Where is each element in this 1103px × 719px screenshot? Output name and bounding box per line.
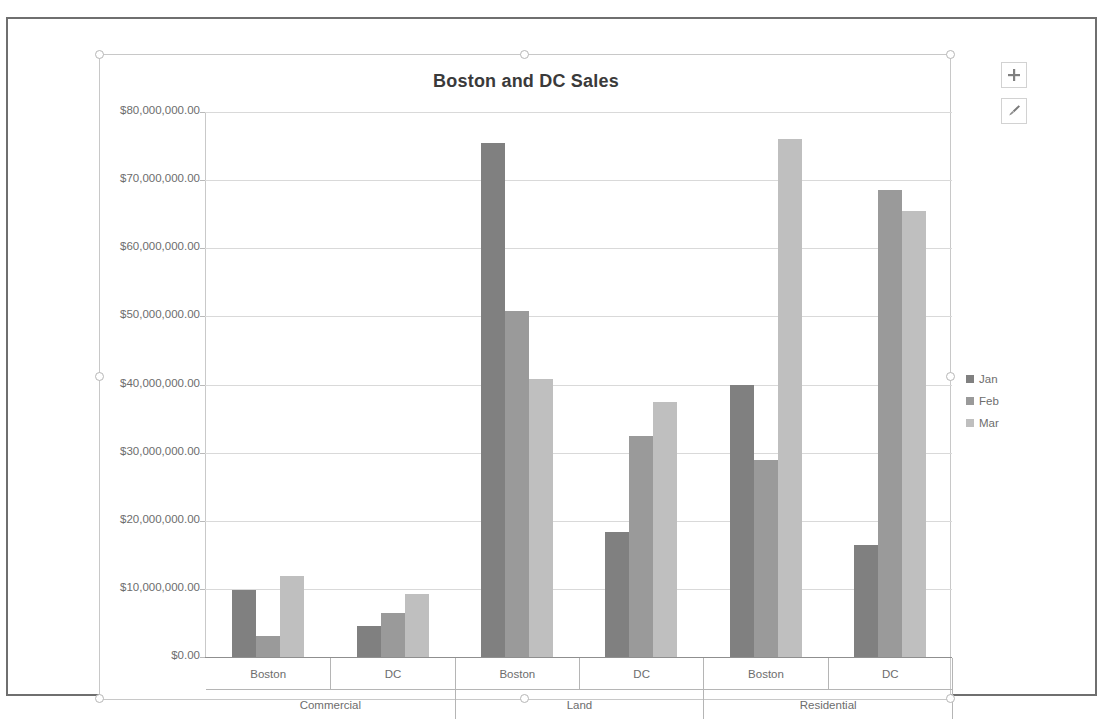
group-label-residential: Residential — [703, 689, 952, 719]
legend-item-jan[interactable]: Jan — [966, 368, 1030, 390]
y-axis-tick — [200, 316, 205, 317]
resize-handle-bottom-right[interactable] — [946, 694, 955, 703]
category-label-dc-5: DC — [828, 658, 952, 689]
bar-jan-land-dc[interactable] — [605, 532, 629, 657]
category-axis-level-1-end-rule — [952, 658, 953, 689]
category-axis-level-1: BostonDCBostonDCBostonDC — [206, 658, 952, 689]
bar-jan-land-boston[interactable] — [481, 143, 505, 657]
y-axis-tick-label: $40,000,000.00 — [50, 377, 200, 389]
bar-feb-commercial-dc[interactable] — [381, 613, 405, 657]
plus-icon — [1007, 68, 1021, 82]
bars-layer — [206, 112, 952, 657]
y-axis-tick — [200, 453, 205, 454]
category-label-boston-2: Boston — [455, 658, 579, 689]
chart-object[interactable]: Boston and DC Sales $80,000,000.00$70,00… — [99, 54, 951, 700]
y-axis-tick-label: $80,000,000.00 — [50, 104, 200, 116]
bar-mar-commercial-dc[interactable] — [405, 594, 429, 657]
category-label-dc-3: DC — [579, 658, 703, 689]
category-axis-level-2: CommercialLandResidential — [206, 689, 952, 719]
resize-handle-top-left[interactable] — [95, 50, 104, 59]
y-axis-tick-label: $20,000,000.00 — [50, 513, 200, 525]
legend-label: Feb — [979, 395, 999, 407]
group-label-commercial: Commercial — [206, 689, 455, 719]
bar-feb-land-boston[interactable] — [505, 311, 529, 657]
y-axis-tick — [200, 248, 205, 249]
legend-swatch-feb-icon — [966, 397, 974, 405]
chart-title: Boston and DC Sales — [100, 71, 952, 92]
y-axis-tick — [200, 180, 205, 181]
bar-jan-commercial-dc[interactable] — [357, 626, 381, 657]
y-axis-tick-label: $30,000,000.00 — [50, 445, 200, 457]
chart-legend[interactable]: JanFebMar — [966, 368, 1030, 434]
bar-mar-commercial-boston[interactable] — [280, 576, 304, 657]
bar-jan-commercial-boston[interactable] — [232, 590, 256, 657]
y-axis-tick-label: $60,000,000.00 — [50, 240, 200, 252]
chart-elements-button[interactable] — [1001, 62, 1027, 88]
bar-jan-residential-dc[interactable] — [854, 545, 878, 657]
bar-feb-land-dc[interactable] — [629, 436, 653, 657]
y-axis-tick — [200, 112, 205, 113]
category-label-boston-4: Boston — [703, 658, 827, 689]
bar-mar-land-dc[interactable] — [653, 402, 677, 657]
legend-label: Jan — [979, 373, 998, 385]
bar-jan-residential-boston[interactable] — [730, 385, 754, 657]
resize-handle-top-center[interactable] — [520, 50, 529, 59]
screenshot-root: Boston and DC Sales $80,000,000.00$70,00… — [0, 0, 1103, 719]
bar-feb-residential-boston[interactable] — [754, 460, 778, 657]
legend-item-feb[interactable]: Feb — [966, 390, 1030, 412]
y-axis-tick-label: $10,000,000.00 — [50, 581, 200, 593]
legend-item-mar[interactable]: Mar — [966, 412, 1030, 434]
plot-area: $80,000,000.00$70,000,000.00$60,000,000.… — [205, 112, 952, 657]
group-label-land: Land — [455, 689, 704, 719]
resize-handle-middle-right[interactable] — [946, 372, 955, 381]
legend-swatch-mar-icon — [966, 419, 974, 427]
bar-mar-residential-dc[interactable] — [902, 211, 926, 657]
legend-swatch-jan-icon — [966, 375, 974, 383]
worksheet-frame: Boston and DC Sales $80,000,000.00$70,00… — [6, 17, 1097, 696]
resize-handle-top-right[interactable] — [946, 50, 955, 59]
legend-label: Mar — [979, 417, 999, 429]
bar-mar-land-boston[interactable] — [529, 379, 553, 657]
bar-mar-residential-boston[interactable] — [778, 139, 802, 657]
y-axis-tick-label: $50,000,000.00 — [50, 308, 200, 320]
y-axis-tick-label: $70,000,000.00 — [50, 172, 200, 184]
resize-handle-bottom-center[interactable] — [520, 694, 529, 703]
bar-feb-commercial-boston[interactable] — [256, 636, 280, 657]
y-axis-tick-label: $0.00 — [50, 649, 200, 661]
resize-handle-bottom-left[interactable] — [95, 694, 104, 703]
paintbrush-icon — [1006, 103, 1022, 119]
category-label-boston-0: Boston — [206, 658, 330, 689]
top-cutoff-text — [0, 0, 1103, 10]
y-axis-tick — [200, 385, 205, 386]
category-label-dc-1: DC — [330, 658, 454, 689]
resize-handle-middle-left[interactable] — [95, 372, 104, 381]
bar-feb-residential-dc[interactable] — [878, 190, 902, 657]
y-axis-tick — [200, 589, 205, 590]
chart-styles-button[interactable] — [1001, 98, 1027, 124]
y-axis-tick — [200, 521, 205, 522]
